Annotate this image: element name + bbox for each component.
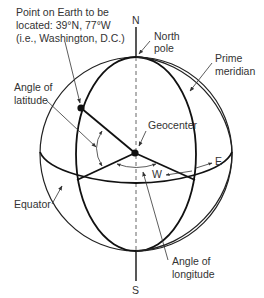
west-label: W (152, 168, 162, 180)
equator-leader (52, 186, 62, 204)
geocenter-marker (131, 149, 138, 156)
north-pole-leader (139, 41, 150, 54)
longitude-angle-arc (117, 164, 156, 168)
north-pole-label-line2: pole (154, 42, 174, 54)
prime-meridian-label-line1: Prime (215, 52, 243, 64)
longitude-leader (143, 172, 168, 260)
longitude-label-line1: Angle of (172, 255, 211, 267)
south-label: S (132, 284, 139, 296)
west-arrow (166, 171, 192, 175)
prime-meridian-label-line2: meridian (215, 65, 255, 77)
geocenter-leader (139, 131, 146, 146)
east-label: E (215, 155, 222, 167)
equator-label: Equator (14, 198, 51, 210)
point-label-line2: located: 39°N, 77°W (16, 19, 111, 31)
east-arrow (196, 163, 212, 168)
north-label: N (132, 14, 140, 26)
latitude-angle-arc (97, 131, 103, 166)
location-point-marker (77, 104, 84, 111)
latitude-label-line1: Angle of (14, 81, 53, 93)
north-pole-label-line1: North (154, 30, 180, 42)
earth-coordinates-diagram: Point on Earth to be located: 39°N, 77°W… (0, 0, 264, 298)
point-label-line3: (i.e., Washington, D.C.) (16, 32, 125, 44)
geocenter-label: Geocenter (148, 119, 198, 131)
point-label-line1: Point on Earth to be (16, 6, 109, 18)
longitude-label-line2: longitude (172, 268, 215, 280)
latitude-label-line2: latitude (14, 94, 48, 106)
latitude-leader (46, 100, 96, 147)
radius-to-point (81, 108, 135, 153)
point-leader (65, 42, 80, 103)
prime-meridian (136, 57, 232, 251)
